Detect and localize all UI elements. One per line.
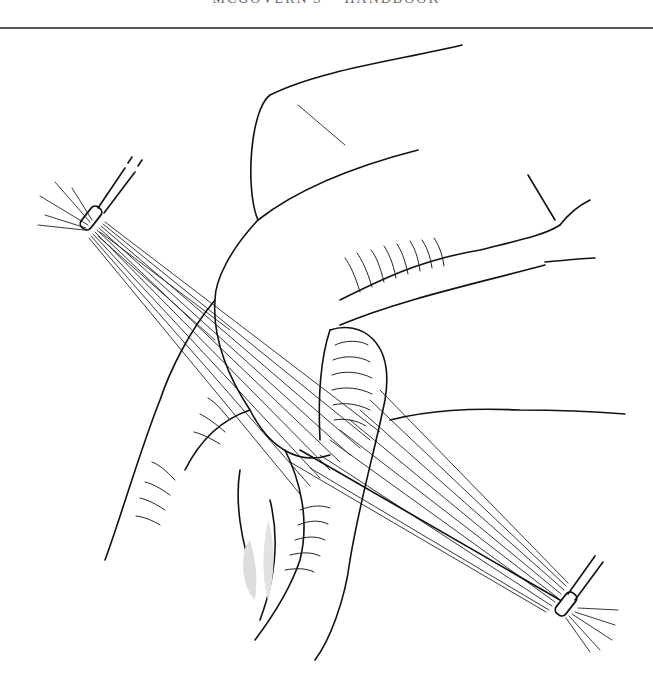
running-header: MCGOVERN'S HANDBOOK — [0, 0, 653, 5]
header-left-word: MCGOVERN'S — [212, 0, 322, 5]
surgical-illustration — [0, 30, 653, 674]
bowel-loop — [105, 300, 387, 660]
suture-bundle-upper — [89, 222, 380, 494]
hand — [215, 45, 625, 458]
clamp-upper-left — [38, 157, 142, 232]
header-rule — [0, 27, 653, 29]
header-right-word: HANDBOOK — [344, 0, 440, 5]
clamp-lower-right — [553, 556, 618, 652]
